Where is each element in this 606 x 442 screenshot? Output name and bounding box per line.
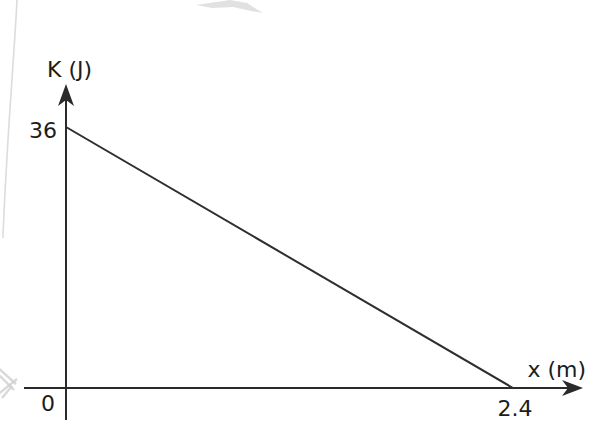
scan-artifact-page-edge <box>3 0 17 238</box>
origin-label: 0 <box>41 391 55 416</box>
x-axis-title: x (m) <box>527 357 586 382</box>
kinetic-energy-vs-position-graph: K (J) 36 x (m) 0 2.4 <box>0 0 606 442</box>
scan-artifact-smudge <box>196 0 263 13</box>
graph-page: K (J) 36 x (m) 0 2.4 <box>0 0 606 442</box>
y-axis-tick-label-36: 36 <box>29 118 57 143</box>
y-axis-title: K (J) <box>47 57 92 82</box>
x-axis-tick-label-2-4: 2.4 <box>498 396 533 421</box>
data-line <box>66 127 513 388</box>
scan-artifact-star-mark <box>0 366 17 398</box>
